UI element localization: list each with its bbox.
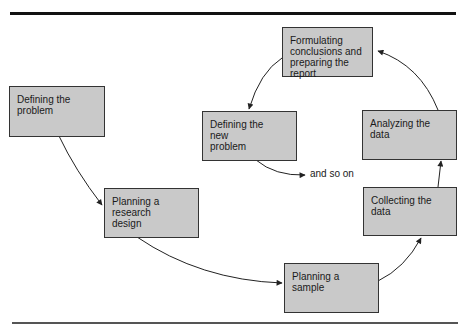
node-defining-new-problem: Defining the new problem: [202, 111, 297, 161]
node-analyzing-data: Analyzing the data: [362, 110, 457, 160]
node-formulating-conclusions: Formulating conclusions and preparing th…: [282, 27, 373, 77]
node-defining-problem: Defining the problem: [9, 86, 105, 137]
node-collecting-data: Collecting the data: [363, 187, 457, 236]
node-planning-research-design: Planning a research design: [104, 188, 199, 238]
arrow-sample-to-collect: [378, 238, 421, 281]
arrow-conclude-to-newproblem: [249, 58, 282, 109]
continuation-label: and so on: [310, 168, 354, 179]
bottom-rule: [12, 322, 458, 324]
arrow-define-to-research: [59, 136, 102, 205]
connector-arrows: [0, 0, 470, 333]
arrow-analyze-to-conclude: [378, 51, 438, 110]
arrow-collect-to-analyze: [438, 161, 441, 187]
arrow-research-to-sample: [137, 237, 282, 283]
node-planning-sample: Planning a sample: [284, 263, 379, 313]
arrow-newproblem-to-continuation: [256, 160, 305, 175]
